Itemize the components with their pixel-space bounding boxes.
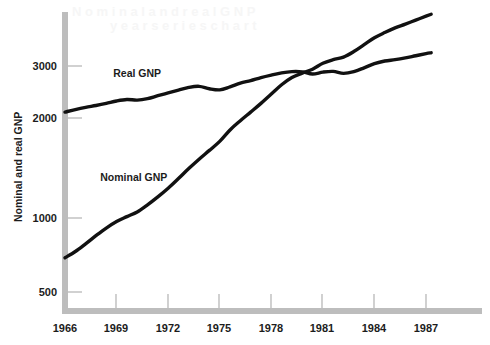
x-tick-label-1972: 1972 [156,322,180,334]
page-bleed-through-artifact: N o m i n a l a n d r e a l G N P y e a … [72,4,257,33]
svg-text:N o m i n a l a n d r e a: N o m i n a l a n d r e a l G N P [72,4,256,19]
x-tick-label-1966: 1966 [53,322,77,334]
x-tick-label-1969: 1969 [104,322,128,334]
x-tick-label-1975: 1975 [207,322,231,334]
svg-text:y e a r s e r i e s c h a: y e a r s e r i e s c h a r t [110,18,257,33]
x-tick-label-1978: 1978 [259,322,283,334]
real-gnp-line [65,53,431,112]
y-axis-ticks [68,66,82,292]
x-tick-label-1984: 1984 [362,322,387,334]
gnp-line-chart: N o m i n a l a n d r e a l G N P y e a … [0,0,490,345]
y-axis-title: Nominal and real GNP [12,112,24,222]
y-tick-label-3000: 3000 [33,60,57,72]
y-tick-label-2000: 2000 [33,112,57,124]
y-tick-label-500: 500 [39,286,57,298]
y-axis-line [62,12,68,314]
x-axis-tick-labels: 1966 1969 1972 1975 1978 1981 1984 1987 [53,322,438,334]
nominal-gnp-label: Nominal GNP [100,171,167,183]
x-axis-line [62,308,482,314]
x-axis-ticks [65,294,426,308]
y-tick-label-1000: 1000 [33,212,57,224]
real-gnp-label: Real GNP [113,67,161,79]
x-tick-label-1981: 1981 [310,322,334,334]
chart-canvas: N o m i n a l a n d r e a l G N P y e a … [0,0,490,345]
x-tick-label-1987: 1987 [414,322,438,334]
nominal-gnp-line [65,14,431,258]
y-axis-tick-labels: 3000 2000 1000 500 [33,60,57,298]
